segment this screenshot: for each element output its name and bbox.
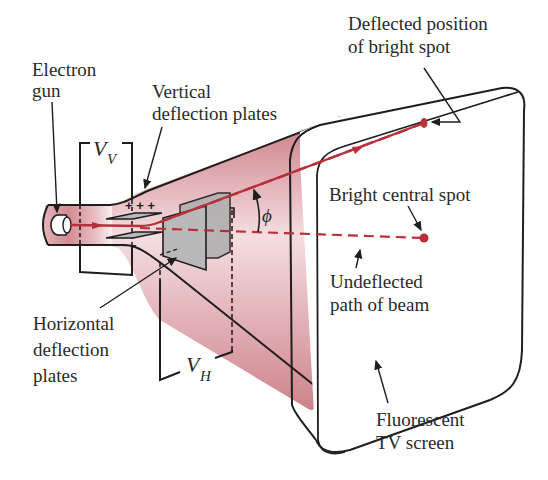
label-horizontal-plates-1: Horizontal	[33, 313, 114, 334]
label-electron-gun-1: Electron	[32, 59, 97, 80]
label-horizontal-plates-3: plates	[33, 365, 77, 386]
electron-gun-icon	[51, 215, 71, 235]
label-electron-gun-2: gun	[32, 80, 61, 101]
vh-subscript: H	[199, 368, 212, 384]
label-deflected-spot-2: of bright spot	[348, 36, 451, 57]
label-screen-2: TV screen	[376, 432, 455, 453]
label-central-spot: Bright central spot	[329, 184, 471, 205]
central-spot	[420, 234, 429, 243]
crt-diagram: V V + + + – – – V H ϕ	[0, 0, 548, 480]
label-deflected-spot-1: Deflected position	[348, 13, 488, 34]
vv-subscript: V	[107, 151, 118, 167]
label-vertical-plates-1: Vertical	[152, 81, 211, 102]
label-horizontal-plates-2: deflection	[33, 339, 109, 360]
label-undeflected-2: path of beam	[330, 294, 429, 315]
plus-charges: + + +	[125, 198, 155, 213]
deflected-spot	[421, 118, 428, 128]
label-screen-1: Fluorescent	[376, 409, 465, 430]
phi-symbol: ϕ	[262, 205, 272, 226]
minus-charges: – – –	[112, 239, 136, 251]
label-vertical-plates-2: deflection plates	[152, 103, 277, 124]
crt-diagram-svg: V V + + + – – – V H ϕ	[0, 0, 548, 480]
label-undeflected-1: Undeflected	[330, 271, 423, 292]
